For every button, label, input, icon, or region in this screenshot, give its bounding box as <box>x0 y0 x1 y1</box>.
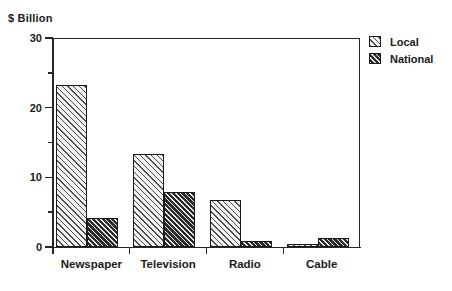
bar-chart-figure: $ Billion 0102030 NewspaperTelevisionRad… <box>0 0 452 291</box>
y-axis-tick-major <box>45 107 53 108</box>
plot-area <box>53 38 360 247</box>
legend-swatch-national <box>369 53 381 64</box>
x-axis-tick <box>206 247 207 254</box>
bar-television-local <box>133 154 164 247</box>
bar-newspaper-national <box>87 218 118 247</box>
y-axis-tick-minor <box>48 72 53 73</box>
bar-radio-national <box>241 241 272 247</box>
y-axis-tick-minor <box>48 211 53 212</box>
x-axis-tick <box>283 247 284 254</box>
x-axis-label-newspaper: Newspaper <box>61 258 122 270</box>
y-axis-tick-major <box>45 37 53 38</box>
chart-legend: LocalNational <box>369 34 433 68</box>
bar-cable-national <box>318 238 349 247</box>
legend-item-local: Local <box>369 34 433 49</box>
legend-label-national: National <box>390 53 433 65</box>
x-axis-tick <box>52 247 53 254</box>
bar-radio-local <box>210 200 241 247</box>
bar-cable-local <box>287 244 318 247</box>
bar-newspaper-local <box>56 85 87 247</box>
y-axis-unit-label: $ Billion <box>8 12 53 24</box>
y-axis-tick-minor <box>48 142 53 143</box>
legend-swatch-local <box>369 36 381 47</box>
y-axis-tick-label: 0 <box>2 241 42 253</box>
legend-label-local: Local <box>390 36 419 48</box>
legend-item-national: National <box>369 51 433 66</box>
x-axis-label-cable: Cable <box>306 258 337 270</box>
bar-television-national <box>164 192 195 247</box>
x-axis-label-television: Television <box>140 258 195 270</box>
x-axis-label-radio: Radio <box>229 258 261 270</box>
y-axis-tick-label: 30 <box>2 32 42 44</box>
x-axis-tick <box>129 247 130 254</box>
y-axis-tick-label: 10 <box>2 171 42 183</box>
y-axis-tick-label: 20 <box>2 102 42 114</box>
y-axis-tick-major <box>45 177 53 178</box>
